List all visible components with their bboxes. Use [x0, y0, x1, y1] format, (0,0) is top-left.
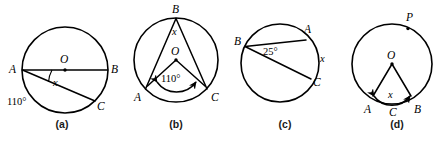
panel-b: B A C O x 110° [133, 3, 219, 103]
caption-panel-b: (b) [169, 118, 182, 130]
panel-a-label-C: C [97, 100, 105, 112]
panel-d-point-P-dot [406, 27, 409, 30]
panel-b-label-x: x [171, 26, 177, 37]
panel-b-label-110: 110° [161, 73, 181, 84]
panel-c: B A C 25° x [234, 23, 325, 102]
panel-d-center-dot [390, 62, 393, 65]
caption-panel-d: (d) [390, 118, 403, 130]
panel-b-label-B: B [172, 3, 179, 15]
panel-b-label-C: C [211, 91, 219, 103]
panel-c-label-x: x [319, 53, 325, 64]
panel-c-label-C: C [313, 76, 321, 88]
panel-c-chord-BC [245, 47, 311, 80]
geometry-figure-set: A B C O x 110° B A C O x 110° [0, 0, 448, 142]
panel-a-label-x: x [52, 77, 58, 88]
panel-d-label-P: P [405, 11, 413, 23]
panel-b-label-O: O [171, 45, 180, 57]
caption-panel-a: (a) [56, 118, 69, 130]
panel-a-label-O: O [60, 53, 69, 65]
panel-b-label-A: A [133, 91, 142, 103]
panel-d-radius-OB [392, 64, 411, 96]
panel-b-center-dot [174, 58, 177, 61]
panel-d-label-O: O [387, 49, 396, 61]
panel-d-label-C: C [389, 106, 397, 118]
panel-c-label-B: B [234, 35, 241, 47]
panel-a-label-B: B [111, 63, 118, 75]
panel-d-label-x: x [387, 89, 393, 100]
panel-d: P A C B O x [352, 11, 432, 118]
panel-a: A B C O x 110° [7, 27, 118, 113]
panel-b-chord-BC [176, 19, 207, 90]
panel-a-chord-AC [23, 70, 96, 101]
panel-d-label-B: B [414, 103, 421, 115]
panel-c-label-A: A [303, 23, 312, 35]
panel-a-center-dot [63, 68, 66, 71]
panel-a-angle-arc [49, 70, 53, 82]
panel-d-label-A: A [363, 103, 372, 115]
panel-a-label-110: 110° [7, 96, 27, 107]
caption-panel-c: (c) [279, 118, 292, 130]
panel-a-label-A: A [8, 63, 17, 75]
panel-c-label-25: 25° [263, 46, 278, 57]
